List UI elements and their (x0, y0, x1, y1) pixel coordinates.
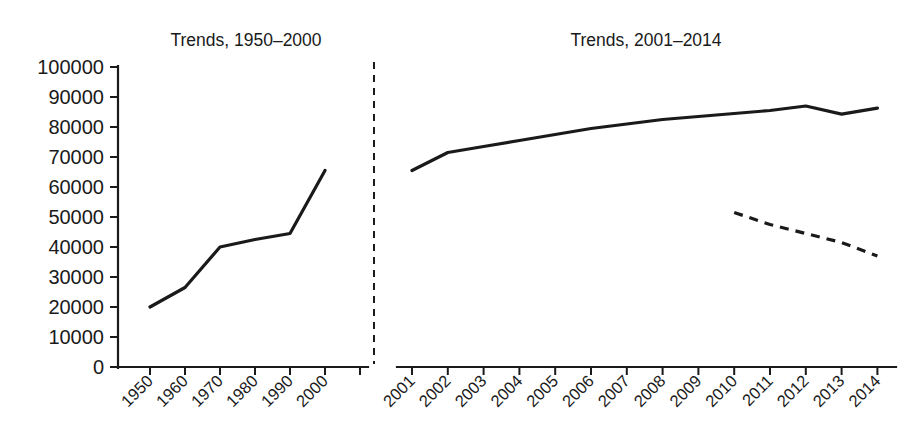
x-tick-label: 2003 (451, 371, 490, 410)
x-tick-label: 1960 (152, 371, 191, 410)
y-tick-label: 10000 (48, 326, 104, 348)
chart-figure: Trends, 1950–2000 Trends, 2001–2014 0100… (0, 0, 917, 446)
left-panel-title: Trends, 1950–2000 (170, 30, 321, 50)
y-tick-label: 20000 (48, 296, 104, 318)
y-tick-label: 70000 (48, 146, 104, 168)
left-x-axis-ticks: 195019601970198019902000 (117, 367, 360, 410)
series-right-panel-dashed-series (734, 213, 877, 257)
x-tick-label: 2014 (845, 371, 884, 410)
x-tick-label: 2002 (415, 371, 454, 410)
y-tick-label: 80000 (48, 116, 104, 138)
x-tick-label: 2009 (666, 371, 705, 410)
y-tick-label: 50000 (48, 206, 104, 228)
x-tick-label: 2001 (379, 371, 418, 410)
x-tick-label: 2006 (558, 371, 597, 410)
right-panel-title: Trends, 2001–2014 (570, 30, 721, 50)
x-tick-label: 2010 (702, 371, 741, 410)
data-series-layer (150, 106, 877, 307)
x-tick-label: 2011 (738, 371, 776, 409)
chart-svg: Trends, 1950–2000 Trends, 2001–2014 0100… (0, 0, 917, 446)
x-tick-label: 2004 (487, 371, 526, 410)
x-tick-label: 2007 (594, 371, 633, 410)
y-tick-label: 30000 (48, 266, 104, 288)
x-tick-label: 2008 (630, 371, 669, 410)
x-tick-label: 2012 (773, 371, 812, 410)
series-left-panel-solid-series (150, 171, 325, 308)
y-tick-label: 60000 (48, 176, 104, 198)
x-tick-label: 2013 (809, 371, 848, 410)
y-tick-label: 100000 (37, 56, 104, 78)
x-tick-label: 2005 (523, 371, 562, 410)
x-tick-label: 1990 (257, 371, 296, 410)
x-tick-label: 1970 (187, 371, 226, 410)
x-tick-label: 1950 (117, 371, 156, 410)
y-axis-ticks: 0100002000030000400005000060000700008000… (37, 56, 118, 378)
y-tick-label: 40000 (48, 236, 104, 258)
y-tick-label: 90000 (48, 86, 104, 108)
series-right-panel-solid-series (412, 106, 877, 171)
x-tick-label: 2000 (292, 371, 331, 410)
x-tick-label: 1980 (222, 371, 261, 410)
y-tick-label: 0 (93, 356, 104, 378)
right-x-axis-ticks: 2001200220032004200520062007200820092010… (379, 367, 883, 410)
